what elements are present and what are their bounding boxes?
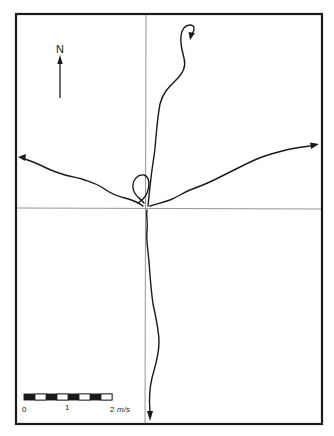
east-track-arrowhead-icon <box>310 143 319 150</box>
scale-label-2: 2 <box>110 405 115 414</box>
north-arrow: N <box>56 43 64 98</box>
west-track-line <box>22 158 143 206</box>
scale-segment <box>46 394 57 400</box>
south-track-line <box>147 210 159 412</box>
north-track-line <box>148 25 194 206</box>
scale-segment <box>57 394 68 400</box>
scale-bar: 0 1 2 m/s <box>22 394 130 414</box>
scale-segment <box>101 394 112 400</box>
south-track-arrowhead-icon <box>147 411 153 421</box>
scale-segment <box>90 394 101 400</box>
diagram-frame <box>16 14 322 424</box>
scale-segment <box>79 394 90 400</box>
vertical-axis <box>145 15 146 423</box>
west-track <box>18 154 143 206</box>
trajectory-diagram: N 0 1 2 m/s <box>0 0 334 436</box>
south-track <box>147 210 159 421</box>
north-track-arrowhead-icon <box>189 32 196 40</box>
west-track-arrowhead-icon <box>18 154 26 161</box>
scale-segment <box>68 394 79 400</box>
east-track-line <box>150 146 310 206</box>
north-track <box>148 25 195 206</box>
east-track <box>150 143 319 207</box>
north-label: N <box>56 43 64 55</box>
loop-near-origin <box>133 175 149 203</box>
scale-segment <box>35 394 46 400</box>
north-arrowhead-icon <box>57 55 62 64</box>
scale-label-1: 1 <box>65 403 70 412</box>
scale-segment <box>24 394 35 400</box>
horizontal-axis <box>17 208 321 209</box>
scale-label-0: 0 <box>22 405 27 414</box>
scale-unit-label: m/s <box>117 405 130 414</box>
